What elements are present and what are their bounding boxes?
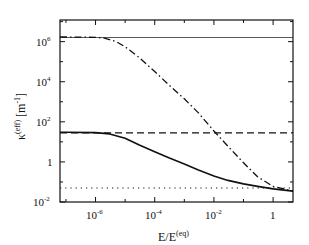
y-tick-labels: 106 104 102 1 10-2	[33, 35, 53, 208]
y-axis-label: κ(eff)[m-1]	[13, 93, 28, 140]
x-tick-1e-6: 10-6	[86, 208, 103, 221]
x-tick-labels: 10-6 10-4 10-2 1	[86, 208, 276, 221]
ticks-layer	[60, 20, 293, 202]
series-solid	[60, 132, 293, 191]
plot-frame	[60, 20, 293, 202]
y-tick-1e-2: 10-2	[33, 195, 50, 208]
x-tick-1: 1	[270, 209, 276, 221]
y-tick-1e6: 106	[36, 35, 51, 48]
x-tick-1e-2: 10-2	[205, 208, 222, 221]
y-tick-1: 1	[47, 156, 53, 168]
x-axis-label: E/E(eq)	[158, 229, 189, 244]
series-dash-dot	[60, 37, 293, 191]
chart: 106 104 102 1 10-2 10-6 10-4 10-2 1 E/E(…	[0, 0, 309, 245]
series-layer	[60, 37, 293, 191]
y-tick-1e4: 104	[36, 75, 51, 88]
y-tick-1e2: 102	[36, 115, 51, 128]
x-tick-1e-4: 10-4	[145, 208, 162, 221]
